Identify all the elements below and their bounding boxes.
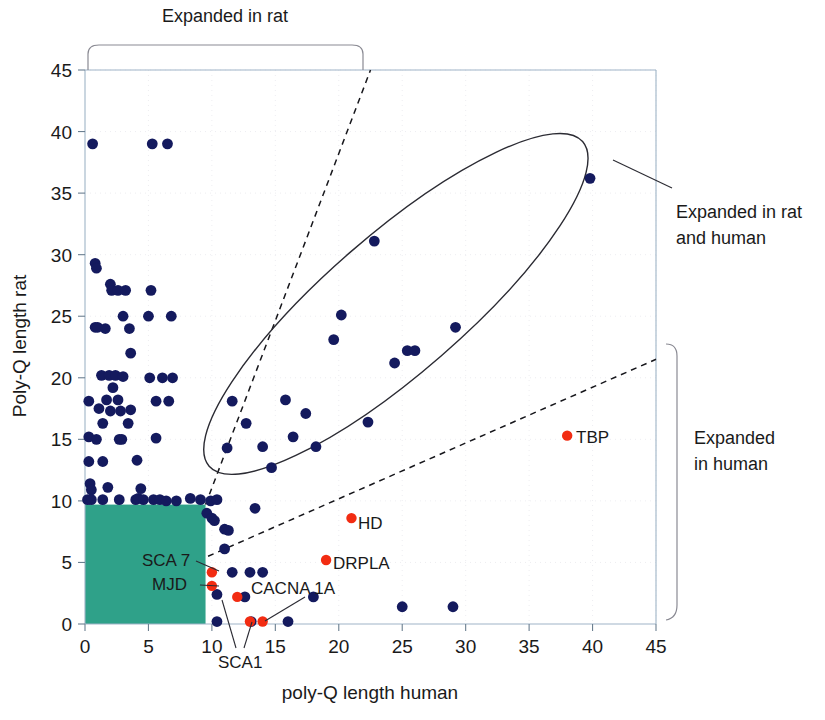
right-bracket-line2: in human: [694, 454, 768, 474]
data-point: [562, 430, 572, 440]
data-point: [115, 406, 126, 417]
label-sca7: SCA 7: [142, 551, 190, 570]
dashed-boundary-lines: [206, 70, 656, 556]
data-point: [266, 462, 277, 473]
label-sca1: SCA1: [218, 653, 262, 672]
data-point: [223, 525, 234, 536]
data-point: [151, 433, 162, 444]
data-point: [97, 494, 108, 505]
data-point: [94, 403, 105, 414]
data-point: [108, 382, 119, 393]
data-point: [257, 567, 268, 578]
data-point: [363, 417, 374, 428]
top-bracket: [88, 45, 363, 70]
data-point: [241, 418, 252, 429]
data-point: [222, 443, 233, 454]
data-point: [257, 616, 267, 626]
data-point: [369, 236, 380, 247]
y-tick-label: 30: [51, 245, 72, 266]
figure-container: 051015202530354045051015202530354045 pol…: [0, 0, 825, 720]
data-point: [219, 544, 230, 555]
data-point: [389, 358, 400, 369]
x-tick-label: 35: [519, 636, 540, 657]
data-point: [86, 484, 97, 495]
data-point: [146, 285, 157, 296]
data-point: [120, 285, 131, 296]
data-point: [113, 395, 124, 406]
data-point: [123, 418, 134, 429]
ellipse-expanded-rat-and-human: [164, 90, 628, 519]
data-point: [138, 494, 149, 505]
data-point: [448, 601, 459, 612]
data-point: [86, 494, 97, 505]
data-point: [245, 567, 256, 578]
data-point: [97, 456, 108, 467]
data-point: [185, 493, 196, 504]
data-point: [245, 616, 255, 626]
data-point: [97, 418, 108, 429]
label-hd: HD: [358, 514, 383, 533]
data-point: [288, 431, 299, 442]
data-point: [132, 455, 143, 466]
data-point: [280, 395, 291, 406]
data-point: [144, 372, 155, 383]
data-point: [171, 495, 182, 506]
data-point: [102, 482, 113, 493]
x-tick-label: 45: [645, 636, 666, 657]
right-bracket: [666, 344, 677, 620]
data-point: [250, 503, 261, 514]
x-tick-label: 15: [265, 636, 286, 657]
x-tick-label: 40: [582, 636, 603, 657]
data-point: [212, 616, 223, 627]
data-point: [585, 173, 596, 184]
data-point: [163, 396, 174, 407]
data-point: [100, 323, 111, 334]
data-point: [336, 310, 347, 321]
data-point: [212, 494, 223, 505]
y-tick-label: 0: [61, 614, 72, 635]
x-tick-label: 30: [455, 636, 476, 657]
data-point: [147, 138, 158, 149]
data-point: [166, 311, 177, 322]
data-point: [167, 372, 178, 383]
data-point: [207, 567, 217, 577]
label-mjd: MJD: [152, 575, 187, 594]
x-tick-label: 5: [143, 636, 154, 657]
data-point: [346, 513, 356, 523]
data-point: [257, 441, 268, 452]
data-point: [87, 138, 98, 149]
data-point: [118, 311, 129, 322]
ellipse-callout-line1: Expanded in rat: [676, 202, 802, 222]
data-point: [91, 263, 102, 274]
data-point: [83, 456, 94, 467]
data-point: [410, 345, 421, 356]
data-point: [151, 396, 162, 407]
y-tick-label: 15: [51, 429, 72, 450]
data-point: [91, 434, 102, 445]
label-tbp: TBP: [576, 428, 609, 447]
data-point: [161, 495, 172, 506]
data-point: [135, 483, 146, 494]
x-axis-title: poly-Q length human: [282, 682, 458, 703]
label-cacna1a: CACNA 1A: [251, 579, 336, 598]
data-point: [227, 396, 238, 407]
ellipse-callout-leader: [613, 160, 672, 188]
x-tick-label: 25: [392, 636, 413, 657]
data-point: [125, 348, 136, 359]
data-point: [283, 616, 294, 627]
data-point: [321, 555, 331, 565]
data-point: [300, 408, 311, 419]
y-tick-label: 35: [51, 183, 72, 204]
data-point: [227, 567, 238, 578]
data-point: [157, 372, 168, 383]
right-bracket-line1: Expanded: [694, 428, 775, 448]
y-tick-label: 45: [51, 60, 72, 81]
data-point: [116, 434, 127, 445]
x-axis-ticks: [85, 624, 656, 631]
top-bracket-label: Expanded in rat: [162, 6, 288, 26]
y-tick-label: 25: [51, 306, 72, 327]
y-tick-label: 40: [51, 122, 72, 143]
data-point: [143, 311, 154, 322]
data-point: [162, 138, 173, 149]
data-point: [232, 592, 242, 602]
